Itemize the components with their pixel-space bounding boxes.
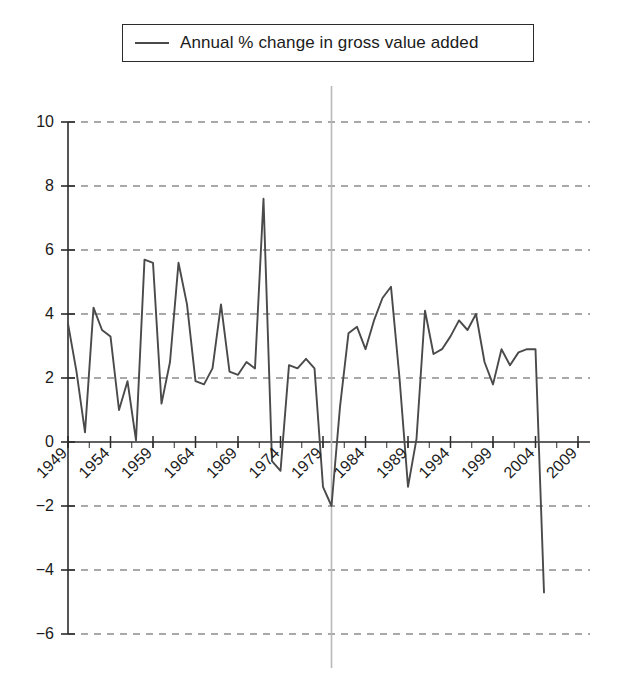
- data-series-line: [68, 199, 544, 593]
- x-axis-tick-label: 1964: [160, 444, 197, 481]
- plot-area: 1086420−2−4−6 19491954195919641969197419…: [0, 0, 619, 677]
- x-axis-labels-group: 1949195419591964196919741979198419891994…: [33, 444, 580, 481]
- chart-plot-svg: 1086420−2−4−6 19491954195919641969197419…: [0, 0, 619, 677]
- x-axis-tick-label: 1954: [75, 444, 112, 481]
- x-axis-tick-label: 1974: [245, 444, 282, 481]
- chart-root: Annual % change in gross value added 108…: [0, 0, 619, 677]
- y-axis-tick-label: 2: [45, 369, 54, 386]
- x-axis-tick-label: 1994: [415, 444, 452, 481]
- y-axis-tick-label: −4: [36, 561, 54, 578]
- series-line-annual-pct-change: [68, 199, 544, 593]
- x-axis-tick-label: 1959: [118, 444, 155, 481]
- x-axis-tick-label: 1999: [458, 444, 495, 481]
- x-axis-tick-label: 1969: [203, 444, 240, 481]
- y-axis-tick-label: −2: [36, 497, 54, 514]
- y-axis-labels-group: 1086420−2−4−6: [36, 113, 54, 642]
- x-axis-tick-label: 2009: [543, 444, 580, 481]
- y-axis-tick-label: 0: [45, 433, 54, 450]
- gridlines-group: [68, 122, 590, 634]
- x-axis-tick-label: 2004: [500, 444, 537, 481]
- y-axis-tick-label: 10: [36, 113, 54, 130]
- y-axis-tick-label: 4: [45, 305, 54, 322]
- y-axis-tick-label: 8: [45, 177, 54, 194]
- y-axis-tick-label: 6: [45, 241, 54, 258]
- x-axis-tick-label: 1949: [33, 444, 70, 481]
- y-axis-tick-label: −6: [36, 625, 54, 642]
